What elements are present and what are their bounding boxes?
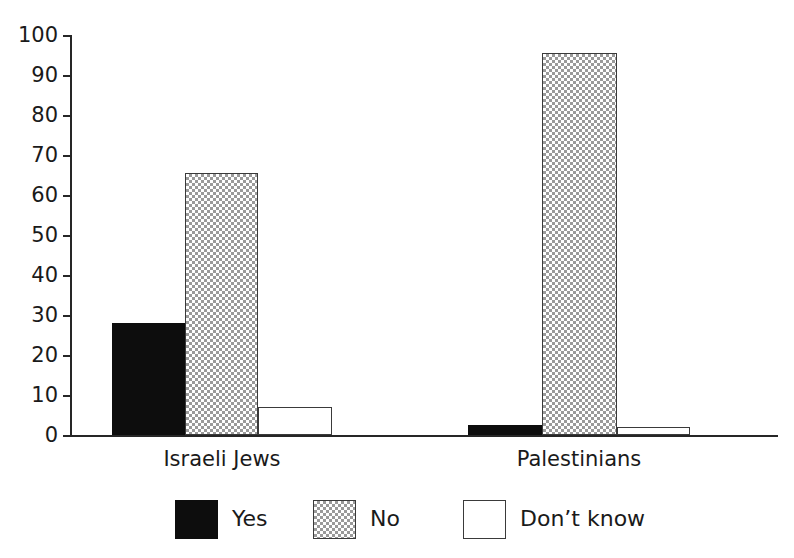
legend-swatch-dont-know-icon xyxy=(463,500,506,539)
bar-palestinians-no xyxy=(542,53,617,435)
x-axis-category-palestinians: Palestinians xyxy=(489,447,669,471)
bar-israeli-jews-no xyxy=(185,173,258,435)
legend-label-yes: Yes xyxy=(232,507,268,531)
chart-legend: Yes No Don’t know xyxy=(0,497,794,545)
x-axis-category-israeli-jews: Israeli Jews xyxy=(132,447,312,471)
legend-label-dont-know: Don’t know xyxy=(520,507,645,531)
legend-item-yes: Yes xyxy=(175,497,268,541)
plot-area: 100 90 80 70 60 50 40 30 20 10 0 Israeli… xyxy=(0,0,794,460)
legend-item-no: No xyxy=(313,497,400,541)
y-axis-tick-0 xyxy=(63,435,72,437)
legend-swatch-yes-icon xyxy=(175,500,218,539)
legend-label-no: No xyxy=(370,507,400,531)
legend-swatch-no-icon xyxy=(313,500,356,539)
bar-palestinians-yes xyxy=(468,425,542,435)
bar-palestinians-dont-know xyxy=(617,427,690,435)
legend-item-dont-know: Don’t know xyxy=(463,497,645,541)
x-axis-line xyxy=(70,435,778,437)
bars-layer xyxy=(0,0,794,435)
bar-chart: 100 90 80 70 60 50 40 30 20 10 0 Israeli… xyxy=(0,0,794,558)
bar-israeli-jews-dont-know xyxy=(258,407,332,435)
bar-israeli-jews-yes xyxy=(112,323,185,435)
